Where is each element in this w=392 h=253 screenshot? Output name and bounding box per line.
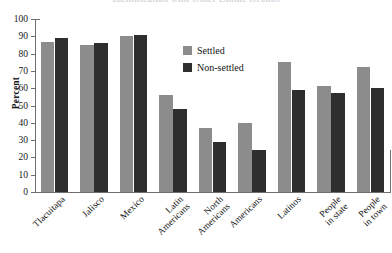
legend-swatch-icon-settled xyxy=(183,46,192,55)
bar-settled xyxy=(199,128,213,192)
legend-swatch-icon-non-settled xyxy=(183,63,192,72)
bar-group xyxy=(41,19,69,192)
y-tick-label: 80 xyxy=(19,49,29,59)
bar-non-settled xyxy=(173,109,187,192)
bar-group xyxy=(357,19,385,192)
bar-non-settled xyxy=(134,35,148,192)
y-tick-label: 100 xyxy=(14,14,28,24)
y-axis-ticks: 1009080706050403020100 xyxy=(0,19,35,192)
y-tick-label: 30 xyxy=(19,135,29,145)
bar-non-settled xyxy=(331,93,345,192)
bar-settled xyxy=(41,42,55,193)
bar-settled xyxy=(120,36,134,192)
bar-non-settled xyxy=(252,150,266,192)
bar-settled xyxy=(317,86,331,192)
y-tick-label: 90 xyxy=(19,31,29,41)
y-tick-label: 40 xyxy=(19,118,29,128)
bar-group xyxy=(80,19,108,192)
bar-non-settled xyxy=(371,88,385,192)
legend-label-settled: Settled xyxy=(197,45,225,56)
x-axis-labels: TlacuitapaJaliscoMexicoLatin AmericansNo… xyxy=(0,194,392,253)
bar-non-settled xyxy=(55,38,69,192)
bar-non-settled xyxy=(94,43,108,192)
legend-item-settled: Settled xyxy=(183,43,293,58)
bar-settled xyxy=(80,45,94,192)
bar-non-settled xyxy=(292,90,306,192)
bar-non-settled xyxy=(213,142,227,192)
y-tick-label: 10 xyxy=(19,170,29,180)
bar-chart: Identification with Other Ethnic Groups … xyxy=(0,0,392,253)
y-tick-label: 60 xyxy=(19,83,29,93)
y-tick-label: 20 xyxy=(19,152,29,162)
legend-label-non-settled: Non-settled xyxy=(197,62,244,73)
bar-settled xyxy=(238,123,252,192)
bar-settled xyxy=(278,62,292,192)
legend-item-non-settled: Non-settled xyxy=(183,60,293,75)
bar-settled xyxy=(357,67,371,192)
legend: Settled Non-settled xyxy=(183,43,293,77)
chart-title: Identification with Other Ethnic Groups xyxy=(0,0,392,2)
bar-group xyxy=(317,19,345,192)
bar-group xyxy=(120,19,148,192)
y-tick-label: 70 xyxy=(19,66,29,76)
bar-settled xyxy=(159,95,173,192)
y-tick-label: 50 xyxy=(19,101,29,111)
